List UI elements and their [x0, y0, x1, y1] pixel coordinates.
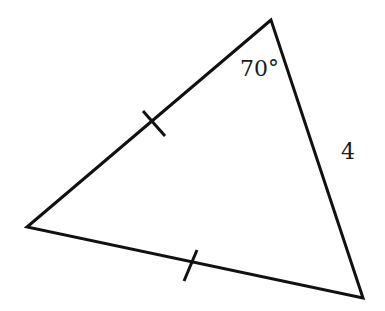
triangle-diagram: 70° 4: [0, 0, 385, 311]
angle-label: 70°: [240, 56, 279, 81]
congruence-tick-top-left-side: [143, 111, 165, 136]
side-length-label: 4: [341, 139, 355, 164]
congruence-tick-bottom-side: [184, 250, 197, 281]
